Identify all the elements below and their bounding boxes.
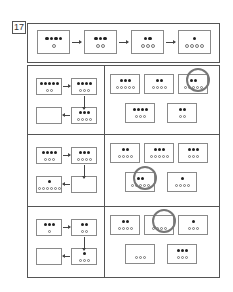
- example-card-4: [178, 30, 211, 54]
- filled-dots: [77, 81, 92, 86]
- row1-sequence-card-2: [71, 78, 97, 95]
- row3-sequence-card-2: [71, 219, 97, 236]
- filled-dots: [44, 222, 55, 227]
- answer-circle-mark: [186, 68, 210, 92]
- empty-circles: [118, 226, 133, 231]
- column-divider: [104, 65, 105, 278]
- row1-option-1[interactable]: [110, 74, 140, 94]
- empty-circles: [81, 229, 88, 234]
- row-divider-1: [27, 134, 220, 135]
- problem-number: 17: [12, 21, 26, 34]
- example-card-1: [37, 30, 70, 54]
- empty-circles: [135, 255, 146, 260]
- filled-dots: [179, 107, 186, 112]
- empty-circles: [179, 114, 186, 119]
- empty-circles: [177, 255, 188, 260]
- filled-dots: [94, 36, 107, 41]
- filled-dots: [193, 36, 197, 41]
- arrow-right-icon: [72, 42, 81, 43]
- arrow-right-icon: [63, 86, 70, 87]
- row1-option-4[interactable]: [125, 103, 155, 123]
- answer-circle-mark: [152, 209, 176, 233]
- arrow-right-icon: [166, 42, 175, 43]
- row3-option-4[interactable]: [125, 244, 155, 264]
- empty-circles: [118, 154, 133, 159]
- filled-dots: [181, 176, 184, 181]
- arrow-right-icon: [63, 155, 70, 156]
- row2-sequence-card-2: [71, 147, 97, 164]
- answer-circle-mark: [133, 166, 157, 190]
- row2-option-1[interactable]: [110, 143, 140, 163]
- empty-circles: [116, 85, 135, 90]
- filled-dots: [40, 81, 59, 86]
- row3-option-5[interactable]: [167, 244, 197, 264]
- empty-circles: [38, 186, 61, 191]
- empty-circles: [152, 85, 167, 90]
- filled-dots: [120, 78, 131, 83]
- row1-sequence-card-1: [36, 78, 62, 95]
- empty-circles: [150, 154, 169, 159]
- empty-circles: [48, 229, 51, 234]
- arrow-left-icon: [63, 184, 70, 185]
- row1-option-2[interactable]: [144, 74, 174, 94]
- filled-dots: [42, 150, 57, 155]
- empty-circles: [52, 43, 56, 48]
- example-card-3: [131, 30, 164, 54]
- row2-option-3[interactable]: [178, 143, 208, 163]
- row1-option-5[interactable]: [167, 103, 197, 123]
- empty-circles: [141, 43, 155, 48]
- arrow-right-icon: [63, 227, 70, 228]
- row1-sequence-card-4[interactable]: [36, 107, 62, 124]
- row3-option-3[interactable]: [178, 215, 208, 235]
- empty-circles: [77, 157, 92, 162]
- row3-option-1[interactable]: [110, 215, 140, 235]
- empty-circles: [188, 226, 199, 231]
- empty-circles: [44, 157, 55, 162]
- empty-circles: [79, 258, 90, 263]
- filled-dots: [45, 36, 62, 41]
- filled-dots: [122, 147, 129, 152]
- filled-dots: [122, 219, 129, 224]
- arrow-left-icon: [63, 115, 70, 116]
- empty-circles: [77, 117, 92, 122]
- arrow-down-icon: [84, 165, 85, 178]
- filled-dots: [177, 248, 188, 253]
- row2-sequence-card-4: [36, 176, 62, 193]
- filled-dots: [79, 150, 90, 155]
- row2-sequence-card-1: [36, 147, 62, 164]
- empty-circles: [46, 88, 53, 93]
- filled-dots: [81, 222, 88, 227]
- empty-circles: [135, 114, 146, 119]
- row-divider-2: [27, 206, 220, 207]
- empty-circles: [96, 43, 105, 48]
- arrow-left-icon: [63, 256, 70, 257]
- row2-option-5[interactable]: [167, 172, 197, 192]
- arrow-down-icon: [84, 96, 85, 109]
- empty-circles: [175, 183, 190, 188]
- empty-circles: [188, 154, 199, 159]
- empty-circles: [79, 88, 90, 93]
- filled-dots: [154, 147, 165, 152]
- arrow-down-icon: [84, 237, 85, 250]
- filled-dots: [188, 147, 199, 152]
- row3-sequence-card-1: [36, 219, 62, 236]
- row2-option-2[interactable]: [144, 143, 174, 163]
- example-card-2: [84, 30, 117, 54]
- row3-sequence-card-4[interactable]: [36, 248, 62, 265]
- filled-dots: [192, 219, 195, 224]
- filled-dots: [156, 78, 163, 83]
- arrow-right-icon: [119, 42, 128, 43]
- empty-circles: [185, 43, 204, 48]
- filled-dots: [144, 36, 152, 41]
- filled-dots: [133, 107, 148, 112]
- filled-dots: [48, 179, 51, 184]
